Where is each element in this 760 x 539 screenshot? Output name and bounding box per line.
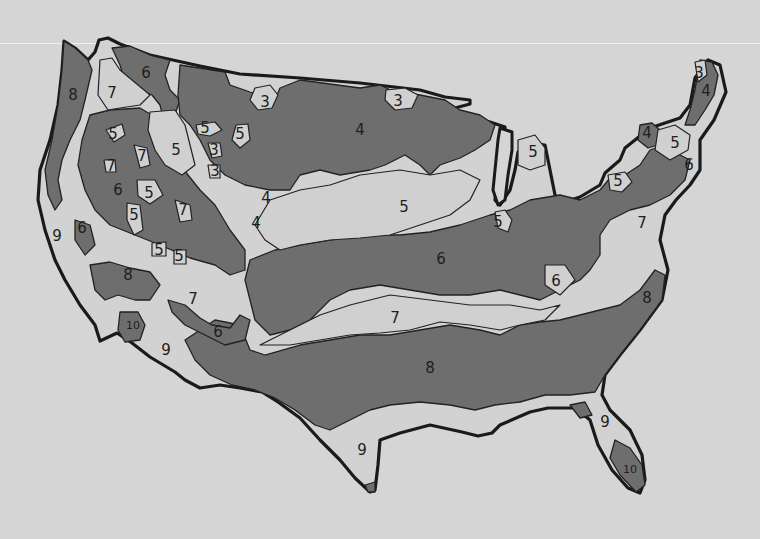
zone-label-or-7b: 7 — [106, 157, 116, 175]
zone-label-tx-8: 8 — [425, 359, 435, 377]
zone-label-wa-7: 7 — [107, 84, 117, 102]
zone-label-wy-3a: 3 — [209, 141, 219, 159]
zone-label-az-8: 8 — [123, 266, 133, 284]
zone-label-wy-5c: 5 — [200, 119, 210, 137]
zone-label-nv-6: 6 — [113, 181, 123, 199]
zone-label-tx-9: 9 — [357, 441, 367, 459]
zone-label-wy-5d: 5 — [235, 125, 245, 143]
zone-label-me-3: 3 — [694, 64, 704, 82]
zone-label-ut-5b: 5 — [129, 206, 139, 224]
zone-label-nd-3: 3 — [393, 92, 403, 110]
zone-label-ma-6: 6 — [684, 156, 694, 174]
zone-label-nv-5a: 5 — [144, 184, 154, 202]
zone-label-fl-9: 9 — [600, 413, 610, 431]
zone-label-ks-6: 6 — [436, 250, 446, 268]
zone-label-ok-7: 7 — [390, 309, 400, 327]
zone-label-or-7a: 7 — [137, 147, 147, 165]
zone-label-az-5b: 5 — [174, 247, 184, 265]
zone-label-ca-9: 9 — [52, 227, 62, 245]
zone-label-id-6: 6 — [141, 64, 151, 82]
zone-label-co-4b: 4 — [251, 214, 261, 232]
zone-label-va-7: 7 — [637, 214, 647, 232]
zone-label-mn-4: 4 — [355, 121, 365, 139]
zone-label-or-5a: 5 — [108, 125, 118, 143]
zone-label-fl-10: 10 — [623, 463, 637, 476]
zone-label-pa-5: 5 — [613, 172, 623, 190]
zone-label-pnw-8: 8 — [68, 86, 78, 104]
zone-label-co-4a: 4 — [261, 189, 271, 207]
zone-label-az-5a: 5 — [154, 241, 164, 259]
zone-label-ne-5: 5 — [399, 198, 409, 216]
zone-label-mi-5: 5 — [493, 213, 503, 231]
zone-label-ky-6: 6 — [551, 272, 561, 290]
zone-label-ca-10: 10 — [126, 319, 140, 332]
zone-label-ca-6: 6 — [77, 219, 87, 237]
zone-label-ut-7: 7 — [178, 201, 188, 219]
zone-label-me-4: 4 — [701, 82, 711, 100]
zone-label-ny-4: 4 — [642, 124, 652, 142]
zone-label-az-7: 7 — [188, 290, 198, 308]
zone-label-vt-5: 5 — [670, 134, 680, 152]
zone-label-ca-9b: 9 — [161, 341, 171, 359]
zone-label-mt-3: 3 — [260, 93, 270, 111]
zone-label-id-5b: 5 — [171, 141, 181, 159]
zone-label-nc-8: 8 — [642, 289, 652, 307]
zone-label-az-6: 6 — [213, 323, 223, 341]
zone-label-wy-3b: 3 — [210, 162, 220, 180]
us-hardiness-zone-map: 8763345555337765574496555655545634768876… — [0, 0, 760, 539]
zone-label-wi-5: 5 — [528, 143, 538, 161]
